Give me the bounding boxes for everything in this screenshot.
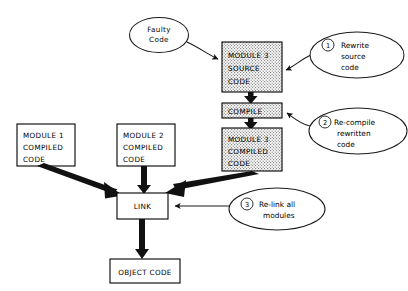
module2-compiled-code-line-2: COMPILED	[123, 143, 163, 152]
callout-1-line-2: source	[341, 52, 366, 61]
node-faulty-code: Faulty Code	[130, 18, 189, 53]
module3-compiled-code-line-3: CODE	[228, 159, 250, 168]
compile-label: COMPILE	[228, 107, 262, 116]
callout-3: 3 Re-link all modules	[229, 188, 325, 230]
callout-1: 1 Rewrite source code	[310, 32, 404, 78]
node-link: LINK	[117, 193, 168, 219]
faulty-code-line-1: Faulty	[147, 25, 171, 34]
callout-1-line-3: code	[341, 63, 359, 72]
module3-source-code-line-1: MODULE 3	[228, 51, 269, 60]
module1-compiled-code-line-1: MODULE 1	[23, 131, 64, 140]
callout-2-line-3: code	[337, 140, 355, 149]
callout-2: 2 Re-compile rewritten code	[309, 108, 407, 154]
module3-compiled-code-line-2: COMPILED	[228, 147, 268, 156]
callout-2-line-2: rewritten	[337, 129, 371, 138]
flowchart-svg: Faulty Code MODULE 3 SOURCE CODE COMPILE	[0, 0, 408, 291]
link-label: LINK	[134, 202, 152, 211]
module2-compiled-code-line-3: CODE	[123, 155, 145, 164]
callout-1-line-1: Rewrite	[341, 41, 369, 50]
callout-3-line-2: modules	[263, 211, 295, 220]
module3-compiled-code-line-1: MODULE 3	[228, 135, 269, 144]
module3-source-code-line-3: CODE	[228, 77, 250, 86]
module1-compiled-code-line-2: COMPILED	[23, 143, 63, 152]
callout-1-number: 1	[326, 42, 330, 50]
object-code-label: OBJECT CODE	[118, 268, 172, 277]
node-compile: COMPILE	[222, 103, 282, 118]
node-module3-compiled-code: MODULE 3 COMPILED CODE	[222, 128, 282, 171]
faulty-code-line-2: Code	[149, 35, 169, 44]
module3-source-code-line-2: SOURCE	[228, 64, 260, 73]
callout-2-number: 2	[323, 119, 327, 127]
node-object-code: OBJECT CODE	[110, 259, 180, 283]
callout-3-line-1: Re-link all	[259, 200, 295, 209]
node-module2-compiled-code: MODULE 2 COMPILED CODE	[117, 124, 175, 166]
callout-3-number: 3	[245, 201, 249, 209]
module2-compiled-code-line-1: MODULE 2	[123, 131, 164, 140]
node-module3-source-code: MODULE 3 SOURCE CODE	[222, 42, 282, 92]
callout-2-line-1: Re-compile	[334, 118, 376, 127]
diagram-canvas: Faulty Code MODULE 3 SOURCE CODE COMPILE	[0, 0, 408, 291]
node-module1-compiled-code: MODULE 1 COMPILED CODE	[17, 124, 75, 166]
module1-compiled-code-line-3: CODE	[23, 155, 45, 164]
